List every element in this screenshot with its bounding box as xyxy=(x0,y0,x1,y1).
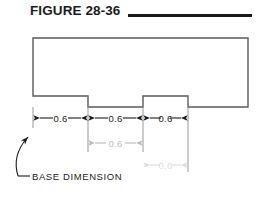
dimension-value: 0.6 xyxy=(54,113,68,124)
dimension-value-ghost: 0.6 xyxy=(109,138,123,149)
technical-drawing: 0.6 0.6 0.6 0.6 0.6 BASE DIMENSION xyxy=(0,0,261,198)
base-dimension-label: BASE DIMENSION xyxy=(32,171,122,182)
dimension-row-2: 0.6 xyxy=(95,138,136,149)
dimension-row-3: 0.6 xyxy=(150,160,181,171)
part-outline xyxy=(33,38,248,107)
dimension-value: 0.6 xyxy=(159,113,173,124)
figure-container: FIGURE 28-36 xyxy=(0,0,261,198)
dimension-row-1: 0.6 0.6 0.6 xyxy=(40,113,181,124)
dimension-value-faint: 0.6 xyxy=(159,160,173,171)
leader-line xyxy=(16,137,28,176)
dimension-value: 0.6 xyxy=(109,113,123,124)
